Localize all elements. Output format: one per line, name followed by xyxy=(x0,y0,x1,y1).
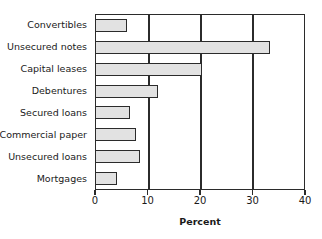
bar-slot xyxy=(96,80,304,102)
bars-layer xyxy=(96,15,304,189)
bar-slot xyxy=(96,102,304,124)
plot-area xyxy=(95,14,305,190)
category-label: Unsecured loans xyxy=(0,146,91,168)
bar-slot xyxy=(96,15,304,37)
category-label: Debentures xyxy=(0,80,91,102)
category-label: Secured loans xyxy=(0,102,91,124)
bar-slot xyxy=(96,124,304,146)
category-label: Mortgages xyxy=(0,168,91,190)
x-axis-tick-labels: 010203040 xyxy=(95,196,305,210)
bar xyxy=(95,106,130,119)
bar-slot xyxy=(96,59,304,81)
bar xyxy=(95,172,117,185)
bar xyxy=(95,85,158,98)
bar xyxy=(95,41,270,54)
category-label: Unsecured notes xyxy=(0,36,91,58)
category-label: Convertibles xyxy=(0,14,91,36)
bar xyxy=(95,128,136,141)
x-axis-title: Percent xyxy=(95,216,305,227)
bar xyxy=(95,19,127,32)
bar xyxy=(95,150,140,163)
bar-slot xyxy=(96,167,304,189)
x-tick-label: 20 xyxy=(194,196,207,206)
bar-slot xyxy=(96,37,304,59)
bar-chart: ConvertiblesUnsecured notesCapital lease… xyxy=(0,0,322,239)
x-tick-label: 30 xyxy=(246,196,259,206)
x-tick-label: 10 xyxy=(141,196,154,206)
x-tick-label: 40 xyxy=(299,196,312,206)
x-tick-label: 0 xyxy=(92,196,98,206)
bar-slot xyxy=(96,146,304,168)
category-label: Capital leases xyxy=(0,58,91,80)
category-axis: ConvertiblesUnsecured notesCapital lease… xyxy=(0,14,91,190)
bar xyxy=(95,63,202,76)
category-label: Commercial paper xyxy=(0,124,91,146)
